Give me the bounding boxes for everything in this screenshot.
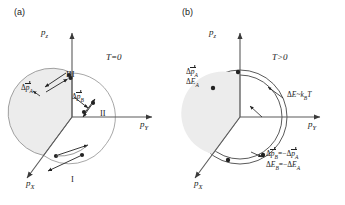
region-I-label-a: I (71, 174, 74, 184)
panel-a-graphics (8, 33, 152, 178)
region-II-label-a: II (100, 108, 106, 118)
delta-p-A-label-a: ΔpA (21, 84, 33, 94)
panel-b-py-axis-label: pY (308, 119, 316, 131)
panel-a-px-axis-label: pX (26, 178, 34, 190)
panel-b-tag: (b) (182, 7, 193, 17)
process-I-arrows-a (48, 145, 88, 171)
figure-vector-layer (0, 0, 345, 205)
delta-p-B-label-a: ΔpB (72, 93, 84, 103)
panel-a-py-axis-label: pY (140, 119, 148, 131)
delta-p-B-relation-label-b: ΔpB=−ΔpA (266, 150, 298, 160)
panel-a-temperature-label: T=0 (106, 52, 122, 62)
region-III-label-a: III (66, 69, 75, 79)
shell-energy-annotation-b: ΔE~kBT (287, 90, 311, 101)
panel-b-temperature-label: T>0 (272, 52, 288, 62)
panel-a-pz-axis-label: pz (41, 27, 48, 39)
panel-a-tag: (a) (14, 7, 25, 17)
delta-E-A-label-b: ΔEA (186, 78, 199, 88)
figure-canvas: (a) T=0 pz pY pX ΔpA ΔpB III II I (b) T>… (0, 0, 345, 205)
panel-b-pz-axis-label: pz (209, 27, 216, 39)
panel-b-px-axis-label: pX (194, 178, 202, 190)
delta-E-B-relation-label-b: ΔEB=−ΔEA (266, 161, 300, 171)
panel-b-graphics (181, 33, 320, 178)
